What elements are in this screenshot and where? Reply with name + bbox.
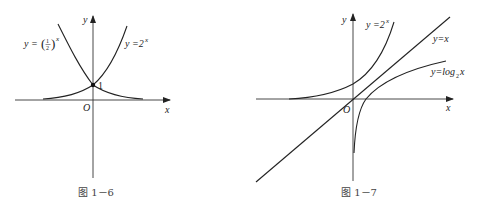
svg-text:2: 2 bbox=[46, 45, 49, 51]
figure-caption: 图 1－6 bbox=[78, 187, 114, 198]
origin-label: O bbox=[83, 102, 90, 113]
svg-text:x: x bbox=[55, 35, 60, 43]
diagram-canvas: y x O 1 y = ( 1 2 ) x y =2 x 图 1－6 bbox=[0, 0, 480, 216]
svg-text:y =2: y =2 bbox=[365, 19, 385, 30]
y-axis-label: y bbox=[341, 14, 347, 25]
svg-text:): ) bbox=[51, 36, 55, 51]
svg-text:y =: y = bbox=[23, 38, 38, 49]
curve-label-log-two: y=log 2 x bbox=[430, 66, 465, 79]
x-axis-label: x bbox=[445, 102, 451, 113]
origin-label: O bbox=[343, 104, 350, 115]
curve-label-two-exp: y =2 x bbox=[365, 17, 390, 30]
curve-label-half-exp: y = ( 1 2 ) x bbox=[23, 35, 60, 51]
intersection-label: 1 bbox=[98, 80, 103, 91]
svg-text:2: 2 bbox=[456, 73, 459, 79]
y-axis-label: y bbox=[82, 14, 88, 25]
svg-text:(: ( bbox=[41, 36, 45, 51]
svg-text:x: x bbox=[144, 36, 149, 44]
svg-text:x: x bbox=[459, 66, 465, 77]
svg-text:y =2: y =2 bbox=[124, 38, 144, 49]
figure-1-7: y x O y =2 x y=x y=log 2 x 图 1－7 bbox=[256, 14, 465, 198]
x-axis-label: x bbox=[164, 104, 170, 115]
svg-text:y=log: y=log bbox=[430, 66, 455, 77]
figure-1-6: y x O 1 y = ( 1 2 ) x y =2 x 图 1－6 bbox=[15, 14, 170, 198]
curve-label-identity: y=x bbox=[432, 33, 449, 44]
figure-caption: 图 1－7 bbox=[341, 187, 377, 198]
curve-label-two-exp: y =2 x bbox=[124, 36, 149, 49]
intersection-point bbox=[91, 83, 95, 87]
svg-text:x: x bbox=[385, 17, 390, 25]
svg-text:1: 1 bbox=[46, 38, 49, 44]
